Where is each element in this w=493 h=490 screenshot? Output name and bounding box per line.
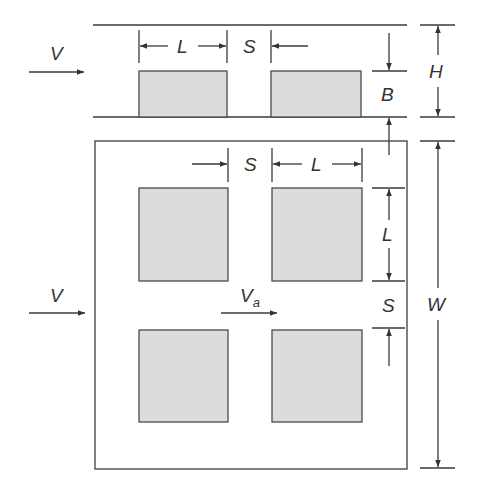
side-block-right [271,71,361,117]
dim-H-label: H [429,61,443,82]
side-block-left [139,71,227,117]
block-bottom-right [272,330,362,422]
block-top-right [272,188,362,281]
dim-L-label: L [177,36,188,57]
block-top-left [139,188,228,281]
approach-velocity-subscript: a [253,295,260,310]
dim-S-v-label: S [382,295,395,316]
top-flow-label: V [50,285,65,306]
block-bottom-left [139,330,228,422]
dim-L-h-label: L [311,154,322,175]
approach-velocity-label: Va [240,285,260,310]
channel-block-array-diagram: V L S B H V Va [0,0,493,490]
side-flow-label: V [50,43,65,64]
dim-L-v-label: L [382,224,393,245]
dim-S-h-label: S [244,154,257,175]
dim-W-label: W [427,294,447,315]
top-view: V Va S L L S W [29,141,455,469]
side-view: V L S B H [29,25,455,155]
dim-S-label: S [243,36,256,57]
dim-B-label: B [381,84,394,105]
